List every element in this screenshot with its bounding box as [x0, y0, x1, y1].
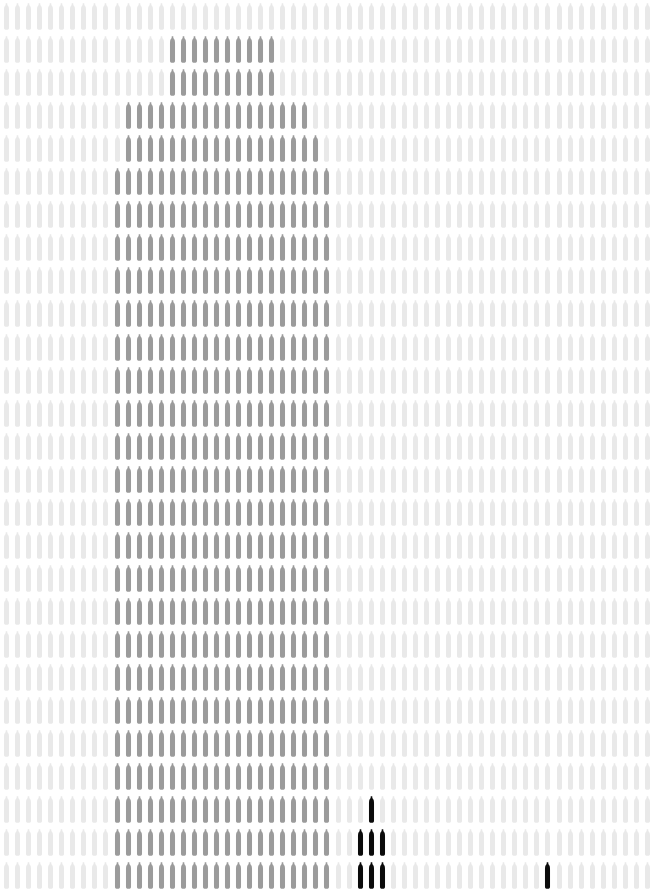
bottle-icon: [466, 597, 475, 626]
bottle-icon: [477, 399, 486, 428]
bottle-icon: [345, 795, 354, 824]
pictogram-row: [0, 134, 653, 163]
bottle-icon: [190, 35, 199, 64]
bottle-icon: [477, 762, 486, 791]
bottle-icon: [356, 861, 365, 890]
bottle-icon: [532, 366, 541, 395]
bottle-icon: [400, 531, 409, 560]
bottle-icon: [322, 432, 331, 461]
bottle-icon: [223, 134, 232, 163]
bottle-icon: [223, 729, 232, 758]
bottle-icon: [24, 399, 33, 428]
bottle-icon: [510, 299, 519, 328]
bottle-icon: [201, 200, 210, 229]
bottle-icon: [234, 729, 243, 758]
bottle-icon: [124, 333, 133, 362]
bottle-icon: [124, 200, 133, 229]
bottle-icon: [455, 762, 464, 791]
bottle-icon: [68, 167, 77, 196]
bottle-icon: [433, 266, 442, 295]
bottle-icon: [300, 366, 309, 395]
pictogram-row: [0, 399, 653, 428]
bottle-icon: [157, 266, 166, 295]
bottle-icon: [345, 564, 354, 593]
bottle-icon: [201, 432, 210, 461]
bottle-icon: [179, 630, 188, 659]
bottle-icon: [532, 465, 541, 494]
bottle-icon: [168, 299, 177, 328]
bottle-icon: [68, 432, 77, 461]
bottle-icon: [510, 861, 519, 890]
bottle-icon: [90, 68, 99, 97]
bottle-icon: [444, 663, 453, 692]
bottle-icon: [455, 101, 464, 130]
bottle-icon: [113, 630, 122, 659]
bottle-icon: [488, 795, 497, 824]
bottle-icon: [400, 399, 409, 428]
bottle-icon: [157, 167, 166, 196]
bottle-icon: [311, 729, 320, 758]
bottle-icon: [488, 68, 497, 97]
bottle-icon: [577, 564, 586, 593]
bottle-icon: [267, 531, 276, 560]
bottle-icon: [356, 729, 365, 758]
bottle-icon: [101, 795, 110, 824]
bottle-icon: [577, 498, 586, 527]
bottle-icon: [510, 762, 519, 791]
bottle-icon: [68, 35, 77, 64]
bottle-icon: [400, 729, 409, 758]
bottle-icon: [345, 35, 354, 64]
bottle-icon: [400, 333, 409, 362]
bottle-icon: [499, 134, 508, 163]
bottle-icon: [223, 696, 232, 725]
bottle-icon: [289, 266, 298, 295]
bottle-icon: [455, 630, 464, 659]
bottle-icon: [422, 762, 431, 791]
bottle-icon: [135, 2, 144, 31]
bottle-icon: [334, 564, 343, 593]
bottle-icon: [345, 663, 354, 692]
bottle-icon: [113, 68, 122, 97]
bottle-icon: [113, 531, 122, 560]
bottle-icon: [389, 795, 398, 824]
bottle-icon: [90, 366, 99, 395]
bottle-icon: [345, 266, 354, 295]
bottle-icon: [632, 299, 641, 328]
bottle-icon: [101, 366, 110, 395]
bottle-icon: [289, 663, 298, 692]
bottle-icon: [2, 762, 11, 791]
bottle-icon: [256, 432, 265, 461]
bottle-icon: [157, 795, 166, 824]
bottle-icon: [79, 2, 88, 31]
bottle-icon: [57, 333, 66, 362]
bottle-icon: [621, 564, 630, 593]
bottle-icon: [599, 861, 608, 890]
bottle-icon: [400, 828, 409, 857]
bottle-icon: [79, 795, 88, 824]
bottle-icon: [68, 498, 77, 527]
bottle-icon: [113, 795, 122, 824]
bottle-icon: [13, 663, 22, 692]
bottle-icon: [367, 630, 376, 659]
bottle-icon: [599, 101, 608, 130]
bottle-icon: [300, 828, 309, 857]
bottle-icon: [57, 68, 66, 97]
bottle-icon: [510, 101, 519, 130]
bottle-icon: [157, 564, 166, 593]
bottle-icon: [101, 564, 110, 593]
bottle-icon: [190, 597, 199, 626]
bottle-icon: [13, 498, 22, 527]
bottle-icon: [57, 630, 66, 659]
bottle-icon: [79, 762, 88, 791]
bottle-icon: [24, 663, 33, 692]
bottle-icon: [267, 134, 276, 163]
bottle-icon: [13, 200, 22, 229]
bottle-icon: [190, 2, 199, 31]
bottle-icon: [466, 630, 475, 659]
bottle-icon: [643, 762, 652, 791]
bottle-icon: [46, 399, 55, 428]
bottle-icon: [256, 795, 265, 824]
bottle-icon: [621, 498, 630, 527]
bottle-icon: [13, 167, 22, 196]
bottle-icon: [267, 35, 276, 64]
